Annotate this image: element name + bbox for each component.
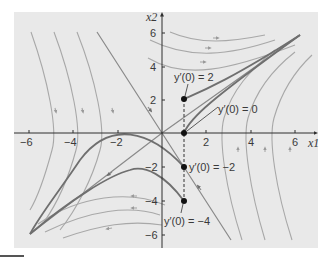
y-tick-label: −6 (145, 229, 158, 241)
y-tick-label: 4 (150, 61, 156, 73)
x-axis-label: x1 (307, 136, 319, 150)
x-tick-label: 2 (203, 136, 209, 148)
y-axis-label: x2 (145, 10, 157, 24)
y-tick-label: 2 (150, 94, 156, 106)
annotation-label: y′(0) = 2 (174, 71, 214, 83)
y-tick-label: −2 (145, 161, 158, 173)
y-tick-label: 6 (150, 27, 156, 39)
annotation-label: y′(0) = −4 (164, 215, 210, 227)
x-tick-label: −2 (110, 136, 123, 148)
x-tick-label: 6 (292, 136, 298, 148)
decorative-rule (0, 255, 24, 257)
y-tick-label: −4 (145, 195, 158, 207)
phase-portrait-diagram: −6 −4 −2 2 4 6 6 4 2 −2 −4 −6 x1 x2 y′(0… (0, 0, 331, 260)
x-tick-label: 4 (248, 136, 254, 148)
x-tick-label: −6 (20, 136, 33, 148)
x-tick-label: −4 (64, 136, 77, 148)
annotation-label: y′(0) = 0 (218, 103, 258, 115)
annotation-label: y′(0) = −2 (189, 161, 235, 173)
